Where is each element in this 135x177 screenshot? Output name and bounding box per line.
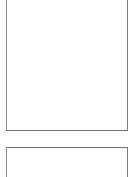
- blank-page-1-content: [7, 0, 127, 130]
- document-viewport[interactable]: [0, 0, 135, 177]
- blank-page-1[interactable]: [6, 0, 128, 131]
- blank-page-2[interactable]: [6, 147, 128, 177]
- blank-page-2-content: [7, 148, 127, 177]
- page-gap: [0, 131, 135, 147]
